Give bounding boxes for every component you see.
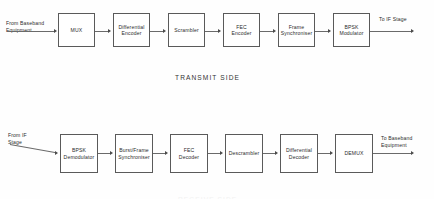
- receive-block-burst-frame-synchroniser[interactable]: Burst/Frame Synchroniser: [115, 134, 153, 173]
- transmit-block-differential-encoder-line2: Encoder: [115, 30, 148, 36]
- receive-block-descrambler[interactable]: Descrambler: [225, 134, 263, 173]
- transmit-link-in: [7, 31, 55, 32]
- transmit-link-4: [260, 31, 274, 32]
- transmit-link-5: [315, 31, 329, 32]
- receive-caption: RECEIVE SIDE: [178, 196, 237, 199]
- receive-arrow-4: [275, 151, 278, 155]
- transmit-arrow-3: [218, 29, 221, 33]
- transmit-arrow-4: [273, 29, 276, 33]
- transmit-block-bpsk-modulator[interactable]: BPSK Modulator: [333, 13, 370, 47]
- transmit-block-fec-encoder[interactable]: FEC Encoder: [223, 13, 260, 47]
- block-diagram: From Baseband Equipment MUX Differential…: [0, 0, 434, 199]
- receive-block-differential-decoder-line1: Differential: [282, 147, 316, 153]
- transmit-arrow-in: [54, 29, 57, 33]
- transmit-block-scrambler[interactable]: Scrambler: [168, 13, 205, 47]
- transmit-link-2: [150, 31, 164, 32]
- transmit-link-3: [205, 31, 219, 32]
- receive-block-bpsk-demodulator-line2: Demodulator: [62, 154, 96, 160]
- receive-input-label-line1: From IF: [8, 132, 27, 139]
- receive-block-burst-frame-synchroniser-line1: Burst/Frame: [117, 147, 151, 153]
- transmit-link-1: [95, 31, 109, 32]
- receive-block-differential-decoder[interactable]: Differential Decoder: [280, 134, 318, 173]
- receive-block-burst-frame-synchroniser-line2: Synchroniser: [117, 154, 151, 160]
- transmit-output-label: To IF Stage: [379, 16, 407, 23]
- receive-block-fec-decoder-line2: Decoder: [172, 154, 206, 160]
- receive-chain: From IF Stage BPSK Demodulator Burst/Fra…: [0, 120, 434, 180]
- receive-block-differential-decoder-line2: Decoder: [282, 154, 316, 160]
- transmit-caption: TRANSMIT SIDE: [175, 74, 240, 81]
- receive-arrow-in: [55, 151, 58, 155]
- transmit-arrow-1: [108, 29, 111, 33]
- transmit-block-fec-encoder-line2: Encoder: [225, 30, 258, 36]
- receive-block-bpsk-demodulator[interactable]: BPSK Demodulator: [60, 134, 98, 173]
- transmit-arrow-5: [328, 29, 331, 33]
- transmit-input-label-line1: From Baseband: [6, 20, 44, 27]
- transmit-block-frame-synchroniser-line2: Synchroniser: [280, 30, 313, 36]
- transmit-block-bpsk-modulator-line2: Modulator: [335, 30, 368, 36]
- receive-arrow-3: [220, 151, 223, 155]
- transmit-block-scrambler-line1: Scrambler: [170, 27, 203, 33]
- receive-arrow-2: [165, 151, 168, 155]
- receive-output-label-line1: To Baseband: [381, 135, 412, 142]
- receive-link-in: [10, 144, 56, 153]
- transmit-block-differential-encoder[interactable]: Differential Encoder: [113, 13, 150, 47]
- receive-arrow-5: [330, 151, 333, 155]
- receive-arrow-1: [110, 151, 113, 155]
- transmit-block-mux-line1: MUX: [60, 27, 93, 33]
- transmit-arrow-out: [411, 29, 414, 33]
- transmit-arrow-2: [163, 29, 166, 33]
- transmit-chain: From Baseband Equipment MUX Differential…: [0, 0, 434, 60]
- receive-output-label: To Baseband Equipment: [381, 135, 412, 149]
- receive-block-fec-decoder[interactable]: FEC Decoder: [170, 134, 208, 173]
- receive-arrow-out: [411, 151, 414, 155]
- transmit-link-out: [370, 31, 412, 32]
- receive-block-descrambler-line1: Descrambler: [227, 150, 261, 156]
- receive-link-out: [373, 153, 412, 154]
- receive-block-demux-line1: DEMUX: [337, 150, 371, 156]
- receive-output-label-line2: Equipment: [381, 142, 412, 149]
- transmit-block-frame-synchroniser[interactable]: Frame Synchroniser: [278, 13, 315, 47]
- transmit-block-mux[interactable]: MUX: [58, 13, 95, 47]
- receive-block-demux[interactable]: DEMUX: [335, 134, 373, 173]
